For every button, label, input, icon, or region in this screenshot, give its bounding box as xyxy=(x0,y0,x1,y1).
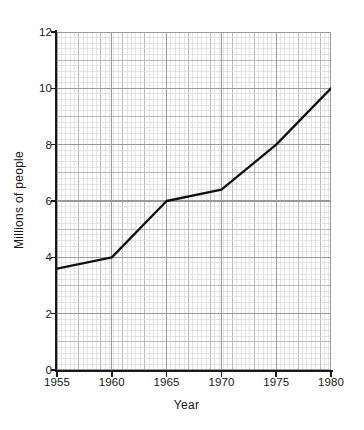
x-tick-mark xyxy=(330,372,332,377)
y-tick-mark xyxy=(51,200,56,202)
y-tick-mark xyxy=(51,144,56,146)
x-tick-label: 1955 xyxy=(27,376,87,389)
x-tick-label: 1970 xyxy=(191,376,251,389)
x-tick-mark xyxy=(111,372,113,377)
x-tick-label: 1965 xyxy=(137,376,197,389)
x-tick-mark xyxy=(56,372,58,377)
line-chart-figure: 024681012195519601965197019751980 Year M… xyxy=(0,0,364,430)
y-tick-label: 10 xyxy=(12,82,52,94)
x-axis-title: Year xyxy=(0,398,364,412)
y-tick-mark xyxy=(51,313,56,315)
y-tick-mark xyxy=(51,88,56,90)
y-axis-title: Millions of people xyxy=(12,120,26,280)
x-tick-label: 1980 xyxy=(301,376,361,389)
x-tick-mark xyxy=(275,372,277,377)
y-tick-label: 2 xyxy=(12,308,52,320)
data-series-line xyxy=(57,32,331,370)
x-tick-mark xyxy=(221,372,223,377)
x-tick-label: 1975 xyxy=(246,376,306,389)
y-tick-label: 12 xyxy=(12,26,52,38)
series-polyline xyxy=(57,88,331,268)
y-tick-mark xyxy=(51,369,56,371)
x-axis-spine xyxy=(55,370,333,372)
plot-area xyxy=(57,32,331,370)
x-tick-mark xyxy=(166,372,168,377)
y-tick-label: 0 xyxy=(12,364,52,376)
x-axis-title-text: Year xyxy=(174,398,199,412)
y-tick-mark xyxy=(51,257,56,259)
x-tick-label: 1960 xyxy=(82,376,142,389)
y-tick-mark xyxy=(51,31,56,33)
